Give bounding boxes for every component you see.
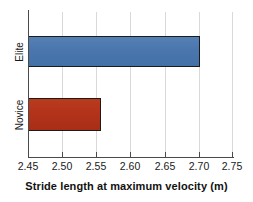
bar-chart: 2.45 2.50 2.55 2.60 2.65 2.70 2.75 Elite… <box>0 0 253 202</box>
gridline-2-55 <box>96 12 97 158</box>
x-tick-2-45 <box>28 152 29 158</box>
bar-novice[interactable] <box>28 98 101 131</box>
x-tick-label-1: 2.50 <box>52 160 72 172</box>
x-tick-2-50 <box>62 152 63 158</box>
x-tick-2-65 <box>165 152 166 158</box>
x-tick-label-2: 2.55 <box>86 160 106 172</box>
gridline-2-70 <box>199 12 200 158</box>
x-tick-label-5: 2.70 <box>189 160 209 172</box>
gridline-2-50 <box>62 12 63 158</box>
gridline-2-65 <box>165 12 166 158</box>
x-tick-label-4: 2.65 <box>155 160 175 172</box>
x-tick-2-75 <box>232 152 233 158</box>
x-tick-2-55 <box>96 152 97 158</box>
y-tick-label-novice: Novice <box>14 100 25 131</box>
y-tick-label-elite: Elite <box>14 42 25 61</box>
x-tick-2-70 <box>199 152 200 158</box>
x-tick-label-0: 2.45 <box>18 160 38 172</box>
x-tick-2-60 <box>130 152 131 158</box>
gridline-2-75 <box>232 12 233 158</box>
bar-elite[interactable] <box>28 36 200 67</box>
x-tick-label-3: 2.60 <box>120 160 140 172</box>
x-tick-label-6: 2.75 <box>222 160 242 172</box>
y-axis-line <box>28 10 29 158</box>
x-axis-title: Stride length at maximum velocity (m) <box>0 180 253 192</box>
plot-area <box>28 12 233 158</box>
gridline-2-60 <box>130 12 131 158</box>
